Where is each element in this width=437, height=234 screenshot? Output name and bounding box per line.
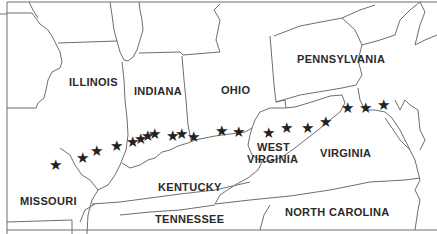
star-icon: ★ (147, 127, 161, 141)
state-label-missouri: MISSOURI (20, 195, 77, 207)
state-label-ohio: OHIO (221, 84, 250, 96)
state-label-tennessee: TENNESSEE (155, 213, 224, 225)
star-icon: ★ (231, 125, 245, 139)
star-icon: ★ (214, 124, 228, 138)
star-icon: ★ (340, 101, 354, 115)
star-icon: ★ (109, 139, 123, 153)
star-icon: ★ (261, 126, 275, 140)
star-icon: ★ (75, 151, 89, 165)
star-icon: ★ (186, 130, 200, 144)
state-label-west-virginia-line2: VIRGINIA (247, 153, 298, 165)
state-label-virginia: VIRGINIA (320, 147, 371, 159)
star-icon: ★ (89, 144, 103, 158)
state-label-west-virginia-line1: WEST (257, 141, 290, 153)
star-icon: ★ (358, 101, 372, 115)
star-icon: ★ (48, 158, 62, 172)
star-icon: ★ (318, 115, 332, 129)
state-label-illinois: ILLINOIS (69, 76, 118, 88)
state-label-indiana: INDIANA (134, 85, 182, 97)
state-label-north-carolina: NORTH CAROLINA (285, 206, 389, 218)
state-label-kentucky: KENTUCKY (158, 181, 222, 193)
star-icon: ★ (300, 121, 314, 135)
star-icon: ★ (376, 98, 390, 112)
star-icon: ★ (279, 121, 293, 135)
state-label-pennsylvania: PENNSYLVANIA (297, 53, 385, 65)
